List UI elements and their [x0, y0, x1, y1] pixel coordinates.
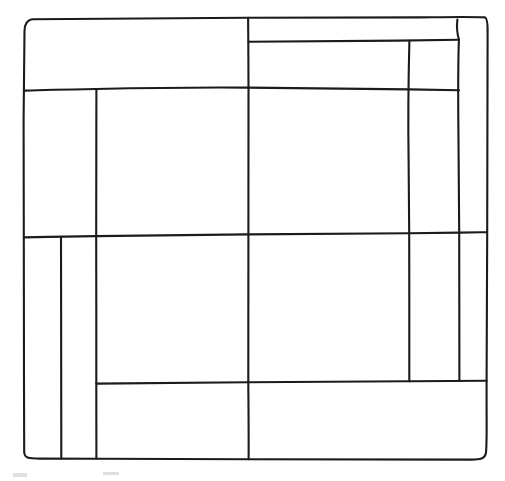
faint-mark-left-artifact — [13, 473, 27, 477]
drawing-canvas — [0, 0, 505, 481]
canvas-background — [0, 0, 505, 481]
faint-mark-right-artifact — [103, 472, 119, 475]
vertical-line-center — [248, 18, 249, 459]
vertical-line-right-strip-a — [408, 41, 409, 382]
hand-drawn-grid-diagram — [0, 0, 505, 481]
vertical-line-right-strip-b — [458, 40, 459, 381]
